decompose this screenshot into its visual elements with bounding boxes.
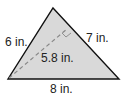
right-side-label: 7 in. — [86, 31, 109, 45]
triangle-diagram: 6 in. 7 in. 5.8 in. 8 in. — [0, 0, 129, 99]
base-label: 8 in. — [50, 82, 73, 96]
altitude-label: 5.8 in. — [41, 51, 74, 65]
left-side-label: 6 in. — [5, 35, 28, 49]
